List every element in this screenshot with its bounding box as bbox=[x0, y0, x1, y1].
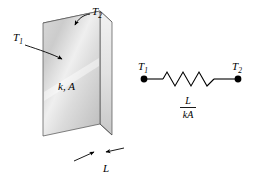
thickness-arrow-left bbox=[74, 152, 94, 161]
slab-t1-label: T1 bbox=[13, 31, 23, 46]
figure-canvas: k, A T1 T2 L bbox=[0, 0, 259, 180]
circuit-t1-label: T1 bbox=[138, 60, 148, 75]
slab-material-label: k, A bbox=[58, 80, 75, 92]
resistance-denominator: kA bbox=[183, 109, 194, 120]
circuit-node-left bbox=[141, 76, 148, 83]
circuit-node-right bbox=[235, 76, 242, 83]
slab-group: k, A T1 T2 L bbox=[13, 5, 124, 174]
slab-side-face bbox=[100, 11, 112, 135]
resistance-fraction: L kA bbox=[180, 95, 196, 120]
thickness-arrow-right bbox=[106, 148, 124, 152]
thermal-conduction-figure: k, A T1 T2 L bbox=[0, 0, 259, 180]
circuit-t2-label: T2 bbox=[232, 60, 242, 75]
slab-thickness-label: L bbox=[102, 162, 109, 174]
slab-front-face bbox=[43, 11, 100, 136]
resistance-numerator: L bbox=[184, 95, 191, 106]
resistor-zigzag bbox=[163, 72, 214, 86]
circuit-group: T1 T2 L kA bbox=[138, 60, 242, 120]
